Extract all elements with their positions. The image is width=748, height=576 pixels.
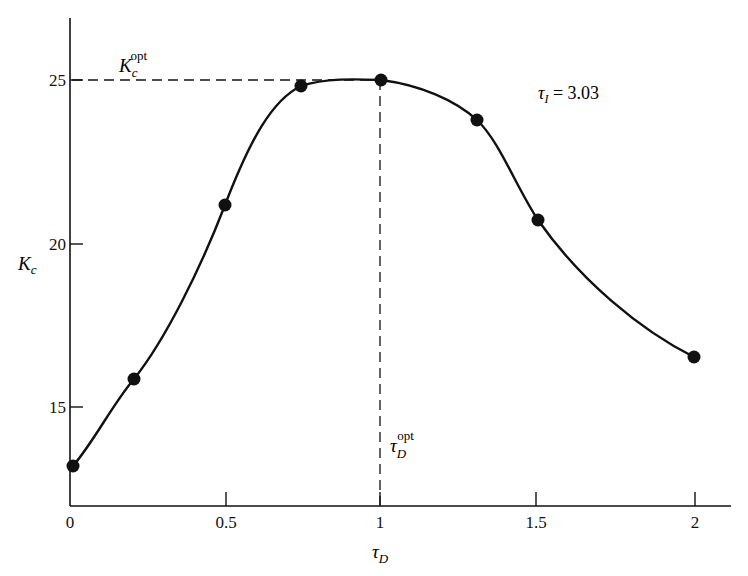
- data-point: [688, 351, 701, 364]
- x-tick-label-1.5: 1.5: [525, 513, 546, 532]
- x-tick-label-2: 2: [691, 513, 700, 532]
- x-tick-label-1: 1: [376, 513, 385, 532]
- topt-label: τDopt: [390, 428, 414, 461]
- chart: 25 20 15 0 0.5 1 1.5 2 Kcopt τDopt: [0, 0, 748, 576]
- data-point: [471, 114, 484, 127]
- y-tick-label-15: 15: [49, 398, 66, 417]
- kopt-label: Kcopt: [118, 48, 147, 80]
- data-point: [219, 199, 232, 212]
- y-ticks: 25 20 15: [49, 71, 83, 417]
- tau-i-annotation: τI = 3.03: [538, 83, 599, 106]
- y-tick-label-20: 20: [49, 235, 66, 254]
- data-point: [532, 214, 545, 227]
- data-points: [67, 74, 701, 473]
- data-curve: [73, 79, 694, 466]
- data-point: [375, 74, 388, 87]
- x-tick-label-0.5: 0.5: [215, 513, 236, 532]
- data-point: [128, 373, 141, 386]
- data-point: [67, 460, 80, 473]
- data-point: [295, 80, 308, 93]
- y-axis-label: Kc: [17, 253, 37, 277]
- y-tick-label-25: 25: [49, 71, 66, 90]
- x-tick-label-0: 0: [66, 513, 75, 532]
- x-ticks: 0 0.5 1 1.5 2: [66, 492, 700, 532]
- x-axis-label: τD: [372, 541, 389, 566]
